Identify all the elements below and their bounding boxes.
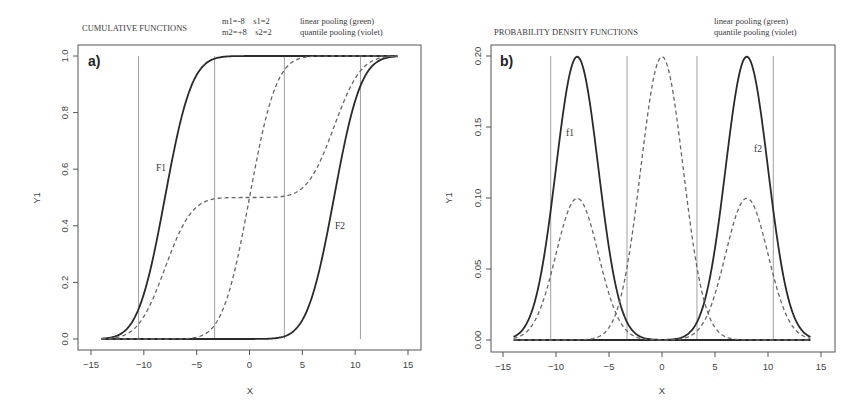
panel-b-frame: [491, 45, 835, 352]
x-tick-label: −5: [604, 361, 615, 372]
label-f1: f1: [566, 128, 574, 138]
x-tick-label: −5: [191, 359, 202, 370]
x-tick-label: 0: [659, 361, 664, 372]
panel-b-x-axis: −15−10−5051015: [495, 352, 826, 372]
figure-canvas: −15−10−5051015 0.00.20.40.60.81.0 a) F1 …: [0, 0, 865, 414]
x-tick-label: 15: [403, 359, 414, 370]
x-tick-label: 15: [816, 361, 827, 372]
x-tick-label: 10: [763, 361, 774, 372]
curve-linear-pooling: [514, 198, 811, 340]
panel-b-tag: b): [500, 53, 513, 69]
curve-f1: [514, 57, 811, 340]
y-tick-label: 0.15: [472, 118, 483, 137]
y-tick-label: 0.00: [472, 331, 483, 350]
curve-f2: [514, 57, 811, 340]
label-F2: F2: [335, 221, 345, 231]
panel-b-ylabel: Y1: [443, 192, 454, 204]
panel-a-tag: a): [88, 53, 100, 69]
x-tick-label: −10: [136, 359, 152, 370]
panel-b-xlabel: X: [659, 385, 666, 396]
x-tick-label: 5: [712, 361, 717, 372]
y-tick-label: 0.20: [472, 47, 483, 66]
panel-a-cumulative-plot: −15−10−5051015 0.00.20.40.60.81.0 a) F1 …: [31, 45, 421, 396]
panel-a-x-axis: −15−10−5051015: [83, 350, 413, 370]
x-tick-label: 0: [247, 359, 252, 370]
curve-linear-pooling: [102, 56, 398, 339]
x-tick-label: −15: [83, 359, 99, 370]
y-tick-label: 0.8: [59, 106, 70, 119]
x-tick-label: −15: [495, 361, 511, 372]
y-tick-label: 0.6: [59, 163, 70, 176]
panel-b-curves: [514, 57, 811, 340]
x-tick-label: −10: [548, 361, 564, 372]
panel-b-reference-lines: [551, 56, 774, 340]
x-tick-label: 10: [350, 359, 361, 370]
curve-quantile-pooling: [514, 57, 811, 340]
panel-a-y-axis: 0.00.20.40.60.81.0: [59, 49, 78, 345]
panel-a-ylabel: Y1: [31, 192, 42, 204]
y-tick-label: 0.05: [472, 260, 483, 279]
y-tick-label: 0.10: [472, 189, 483, 208]
y-tick-label: 1.0: [59, 49, 70, 62]
panel-a-curves: [102, 56, 398, 339]
y-tick-label: 0.4: [59, 219, 70, 232]
panel-b-y-axis: 0.000.050.100.150.20: [472, 47, 491, 350]
panel-b-density-plot: −15−10−5051015 0.000.050.100.150.20 b) f…: [443, 45, 835, 396]
x-tick-label: 5: [300, 359, 305, 370]
y-tick-label: 0.2: [59, 276, 70, 289]
label-F1: F1: [156, 163, 166, 173]
panel-a-xlabel: X: [247, 385, 254, 396]
y-tick-label: 0.0: [59, 332, 70, 345]
label-f2: f2: [754, 144, 762, 154]
